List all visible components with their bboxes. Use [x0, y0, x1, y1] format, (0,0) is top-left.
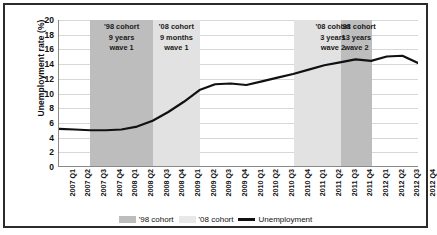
- x-tick-label: 2012 Q1: [381, 169, 390, 197]
- x-tick-label: 2011 Q4: [365, 169, 374, 196]
- x-tick-label: 2007 Q1: [68, 169, 77, 197]
- band-label-line: 13 years: [341, 33, 372, 44]
- legend-swatch: [119, 216, 136, 223]
- x-tick-label: 2008 Q2: [146, 169, 155, 197]
- y-tick-label: 2: [32, 148, 54, 157]
- legend-item: '08 cohort: [179, 215, 234, 224]
- x-tick-label: 2009 Q3: [224, 169, 233, 197]
- x-tick-label: 2007 Q3: [99, 169, 108, 197]
- x-tick-label: 2009 Q2: [209, 169, 218, 197]
- y-tick-label: 16: [32, 45, 54, 54]
- y-tick-label: 12: [32, 75, 54, 84]
- band-label-line: wave 2: [341, 43, 372, 54]
- x-tick-label: 2008 Q4: [177, 169, 186, 197]
- x-tick-label: 2011 Q2: [334, 169, 343, 196]
- legend-label: Unemployment: [258, 215, 312, 224]
- band-label-line: '98 cohort: [90, 22, 153, 33]
- chart-frame: Unemployment rate (%) 20181614121086420 …: [3, 3, 428, 228]
- x-tick-label: 2007 Q4: [115, 169, 124, 197]
- unemployment-rate-chart: Unemployment rate (%) 20181614121086420 …: [5, 5, 426, 226]
- y-tick-label: 20: [32, 16, 54, 25]
- x-axis-tick-labels: 2007 Q12007 Q22007 Q32007 Q42008 Q12008 …: [58, 168, 418, 213]
- y-axis: Unemployment rate (%) 20181614121086420: [28, 5, 54, 226]
- band-label-line: 9 months: [153, 33, 200, 44]
- x-tick-label: 2012 Q3: [412, 169, 421, 197]
- y-tick-label: 14: [32, 60, 54, 69]
- legend-swatch: [179, 216, 196, 223]
- band-label-line: wave 1: [153, 43, 200, 54]
- y-tick-label: 4: [32, 133, 54, 142]
- band-08-wave1-label: '08 cohort9 monthswave 1: [153, 22, 200, 54]
- x-tick-label: 2012 Q4: [428, 169, 437, 197]
- y-tick-label: 0: [32, 163, 54, 172]
- band-label-line: 9 years: [90, 33, 153, 44]
- y-tick-label: 8: [32, 104, 54, 113]
- x-tick-label: 2010 Q3: [287, 169, 296, 197]
- legend-swatch: [238, 218, 255, 220]
- x-tick-label: 2010 Q1: [256, 169, 265, 197]
- x-tick-label: 2009 Q1: [193, 169, 202, 197]
- y-tick-label: 18: [32, 30, 54, 39]
- legend-item: Unemployment: [238, 215, 312, 224]
- legend-label: '08 cohort: [199, 215, 234, 224]
- x-tick-label: 2010 Q2: [271, 169, 280, 197]
- x-tick-label: 2007 Q2: [83, 169, 92, 197]
- chart-legend: '98 cohort'08 cohortUnemployment: [5, 213, 426, 226]
- band-98-wave2-label: '98 cohort13 yearswave 2: [341, 22, 372, 54]
- y-tick-label: 10: [32, 89, 54, 98]
- band-label-line: wave 1: [90, 43, 153, 54]
- x-tick-label: 2009 Q4: [240, 169, 249, 197]
- plot-area: '98 cohort9 yearswave 1'08 cohort9 month…: [58, 20, 418, 167]
- x-tick-label: 2008 Q3: [162, 169, 171, 197]
- x-tick-label: 2010 Q4: [303, 169, 312, 197]
- x-tick-label: 2011 Q1: [318, 169, 327, 196]
- legend-label: '98 cohort: [139, 215, 174, 224]
- x-tick-label: 2011 Q3: [350, 169, 359, 196]
- band-label-line: '08 cohort: [153, 22, 200, 33]
- band-label-line: '98 cohort: [341, 22, 372, 33]
- x-tick-label: 2012 Q2: [397, 169, 406, 197]
- legend-item: '98 cohort: [119, 215, 174, 224]
- band-98-wave1-label: '98 cohort9 yearswave 1: [90, 22, 153, 54]
- x-tick-label: 2008 Q1: [130, 169, 139, 197]
- y-tick-label: 6: [32, 119, 54, 128]
